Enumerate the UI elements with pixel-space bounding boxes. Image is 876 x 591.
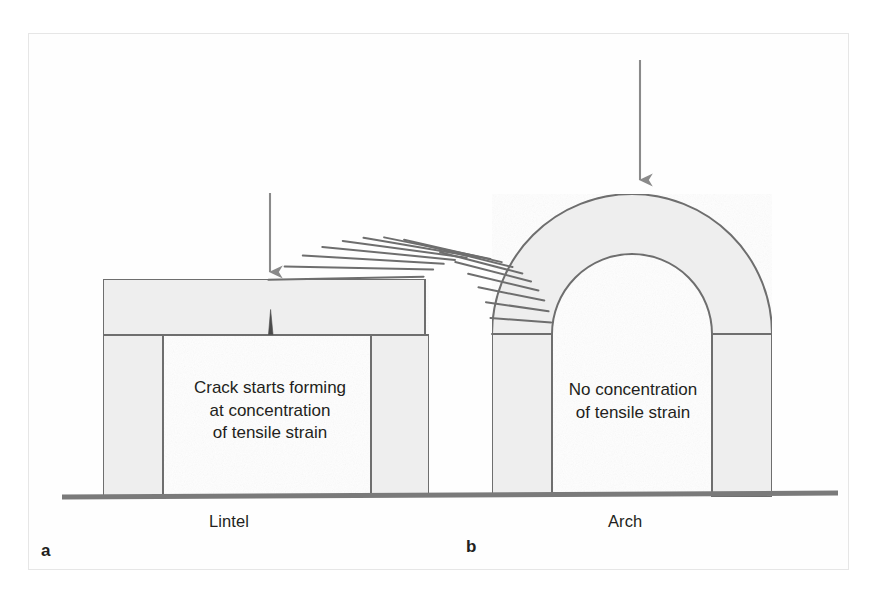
arch-caption: Arch <box>608 512 642 531</box>
lintel-beam <box>103 279 425 335</box>
arch-left-pier <box>492 334 552 497</box>
arch-right-pier <box>712 334 772 497</box>
arch-structure <box>268 194 772 497</box>
figure-root: Crack starts forming at concentration of… <box>0 0 876 591</box>
diagram-canvas <box>0 0 876 591</box>
arch-ring <box>492 194 772 334</box>
panel-letter-b: b <box>466 537 476 557</box>
lintel-strain-annotation: Crack starts forming at concentration of… <box>164 377 376 445</box>
lintel-caption: Lintel <box>209 512 249 531</box>
lintel-right-pier <box>371 335 429 497</box>
lintel-left-pier <box>103 335 163 497</box>
arch-strain-annotation: No concentration of tensile strain <box>553 379 713 424</box>
panel-letter-a: a <box>41 541 50 561</box>
